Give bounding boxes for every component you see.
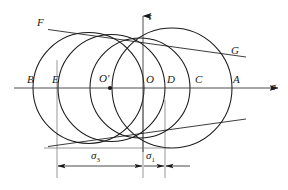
point-O-prime-label: O′: [99, 73, 109, 84]
point-F-label: F: [37, 17, 44, 28]
tau-axis-label: τ: [148, 12, 152, 22]
dimension-sigma1-label: σ1: [146, 150, 155, 164]
center-O-prime-dot: [108, 86, 112, 90]
dimension-sigma3-label: σ3: [91, 150, 100, 164]
point-A-label: A: [233, 74, 240, 85]
sigma3-subscript: 3: [96, 156, 100, 164]
point-B-label: B: [27, 74, 34, 85]
mohr-circle-figure: [0, 0, 288, 190]
sigma1-subscript: 1: [151, 156, 155, 164]
point-C-label: C: [195, 74, 202, 85]
point-G-label: G: [231, 45, 239, 56]
point-D-label: D: [167, 74, 175, 85]
point-O-label: O: [146, 74, 154, 85]
sigma-axis-label: σ: [271, 82, 276, 92]
point-E-label: E: [52, 74, 59, 85]
